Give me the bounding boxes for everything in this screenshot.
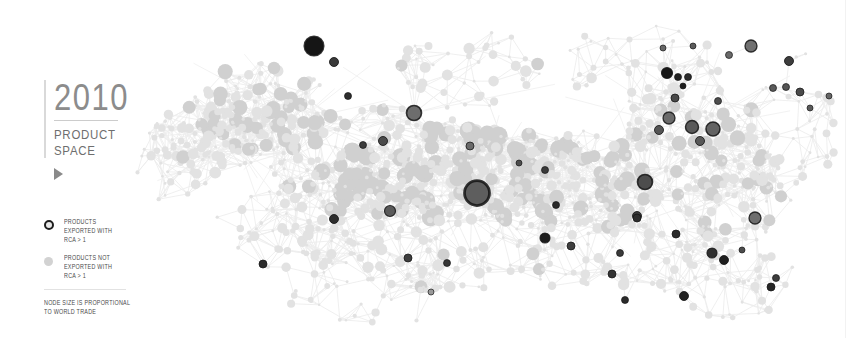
node-active[interactable] <box>608 270 616 278</box>
title-divider <box>54 120 118 121</box>
node-active[interactable] <box>706 122 720 136</box>
node-active[interactable] <box>466 142 474 150</box>
node-active[interactable] <box>663 112 675 124</box>
node-active[interactable] <box>330 215 339 224</box>
node-active[interactable] <box>745 40 757 52</box>
node-active[interactable] <box>622 297 629 304</box>
node-active[interactable] <box>680 83 686 89</box>
dot-marker-icon <box>44 257 53 266</box>
node-active[interactable] <box>360 142 367 149</box>
node-active[interactable] <box>540 233 550 243</box>
node-active[interactable] <box>785 57 794 66</box>
node-active[interactable] <box>542 167 549 174</box>
node-active[interactable] <box>617 250 624 257</box>
node-active[interactable] <box>715 98 722 105</box>
legend-line-2: EXPORTED WITH <box>64 227 112 236</box>
legend-line-3: RCA > 1 <box>64 272 112 281</box>
node-active[interactable] <box>444 260 451 267</box>
node-active[interactable] <box>516 160 522 166</box>
node-active[interactable] <box>662 68 673 79</box>
footnote-line-2: TO WORLD TRADE <box>44 308 170 317</box>
node-active[interactable] <box>385 206 396 217</box>
node-active[interactable] <box>671 94 679 102</box>
title-vertical-rule <box>44 80 46 158</box>
legend-item-not-exported-label: PRODUCTS NOT EXPORTED WITH RCA > 1 <box>64 254 112 281</box>
footnote-line-1: NODE SIZE IS PROPORTIONAL <box>44 299 170 308</box>
node-active[interactable] <box>638 175 653 190</box>
title-block: 2010 PRODUCT SPACE <box>44 78 170 180</box>
node-active[interactable] <box>672 230 680 238</box>
node-active[interactable] <box>707 248 717 258</box>
node-active[interactable] <box>305 37 324 56</box>
node-active[interactable] <box>826 93 832 99</box>
node-active[interactable] <box>465 181 490 206</box>
legend-divider <box>44 289 126 290</box>
node-active[interactable] <box>675 74 682 81</box>
product-space-visualization: 2010 PRODUCT SPACE PRODUCTS EXPORTED WIT… <box>0 0 866 338</box>
legend-line-3: RCA > 1 <box>64 236 112 245</box>
node-active[interactable] <box>404 254 412 262</box>
legend-list: PRODUCTS EXPORTED WITH RCA > 1 PRODUCTS … <box>44 218 170 314</box>
node-active[interactable] <box>773 275 780 282</box>
subtitle-line-2: SPACE <box>54 143 170 158</box>
legend-footnote: NODE SIZE IS PROPORTIONAL TO WORLD TRADE <box>44 299 170 318</box>
node-active[interactable] <box>407 106 422 121</box>
node-active[interactable] <box>796 88 804 96</box>
node-active[interactable] <box>739 247 745 253</box>
node-active[interactable] <box>660 45 666 51</box>
legend-line-1: PRODUCTS <box>64 218 112 227</box>
legend-marker-wrap <box>44 218 64 230</box>
node-active[interactable] <box>720 256 729 265</box>
legend-line-2: EXPORTED WITH <box>64 263 112 272</box>
legend-item-exported-label: PRODUCTS EXPORTED WITH RCA > 1 <box>64 218 112 245</box>
node-active[interactable] <box>696 137 705 146</box>
legend-item-exported: PRODUCTS EXPORTED WITH RCA > 1 <box>44 218 170 240</box>
node-active[interactable] <box>553 202 560 209</box>
legend-marker-wrap <box>44 254 64 266</box>
node-active[interactable] <box>685 74 692 81</box>
node-active[interactable] <box>680 292 689 301</box>
node-active[interactable] <box>330 58 339 67</box>
page-title-year: 2010 <box>54 78 170 117</box>
node-active[interactable] <box>567 242 575 250</box>
node-active[interactable] <box>259 260 267 268</box>
node-active[interactable] <box>726 52 733 59</box>
node-active[interactable] <box>379 137 388 146</box>
legend-item-not-exported: PRODUCTS NOT EXPORTED WITH RCA > 1 <box>44 254 170 276</box>
subtitle-line-1: PRODUCT <box>54 128 170 143</box>
node-active[interactable] <box>807 105 813 111</box>
page-subtitle: PRODUCT SPACE <box>54 128 170 159</box>
play-triangle-icon[interactable] <box>54 168 63 180</box>
node-active[interactable] <box>783 84 790 91</box>
node-active[interactable] <box>686 121 699 134</box>
node-active[interactable] <box>633 214 641 222</box>
node-active[interactable] <box>655 126 664 135</box>
legend-line-1: PRODUCTS NOT <box>64 254 112 263</box>
node-active[interactable] <box>767 283 775 291</box>
node-active[interactable] <box>749 212 761 224</box>
node-active[interactable] <box>690 43 696 49</box>
ring-marker-icon <box>44 220 54 230</box>
right-edge-rule <box>845 0 846 338</box>
legend-panel: 2010 PRODUCT SPACE PRODUCTS EXPORTED WIT… <box>44 78 170 314</box>
node-active[interactable] <box>345 93 352 100</box>
inactive-nodes <box>135 25 837 326</box>
node-active[interactable] <box>428 289 434 295</box>
node-active[interactable] <box>770 85 777 92</box>
